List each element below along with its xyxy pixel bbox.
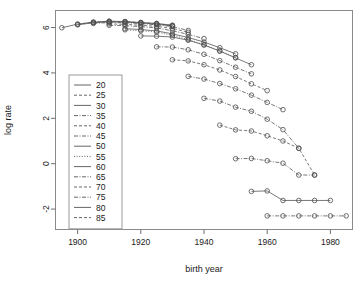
- legend-label-75[interactable]: 75: [96, 192, 106, 202]
- x-axis-label: birth year: [185, 264, 223, 274]
- y-axis-label: log rate: [3, 105, 13, 135]
- x-tick-label: 1960: [258, 237, 277, 247]
- chart-background: [0, 0, 364, 285]
- legend-label-40[interactable]: 40: [96, 121, 106, 131]
- legend[interactable]: 2025303540455055606570758085: [69, 75, 122, 229]
- x-tick-label: 1900: [68, 237, 87, 247]
- y-tick-label: 6: [42, 25, 52, 30]
- y-tick-label: 4: [42, 70, 52, 75]
- chart-root: 19001920194019601980 6420-2 birth year l…: [0, 0, 364, 285]
- legend-label-50[interactable]: 50: [96, 141, 106, 151]
- legend-label-65[interactable]: 65: [96, 172, 106, 182]
- y-tick-label: 2: [42, 116, 52, 121]
- legend-label-30[interactable]: 30: [96, 101, 106, 111]
- y-tick-label: -2: [42, 205, 52, 213]
- legend-label-70[interactable]: 70: [96, 182, 106, 192]
- legend-label-20[interactable]: 20: [96, 80, 106, 90]
- x-tick-label: 1940: [195, 237, 214, 247]
- legend-label-80[interactable]: 80: [96, 203, 106, 213]
- legend-label-60[interactable]: 60: [96, 162, 106, 172]
- x-tick-label: 1980: [321, 237, 340, 247]
- x-tick-label: 1920: [131, 237, 150, 247]
- y-tick-label: 0: [42, 161, 52, 166]
- legend-label-35[interactable]: 35: [96, 111, 106, 121]
- cohort-log-rate-chart: 19001920194019601980 6420-2 birth year l…: [0, 0, 364, 285]
- legend-label-25[interactable]: 25: [96, 90, 106, 100]
- legend-label-45[interactable]: 45: [96, 131, 106, 141]
- legend-label-55[interactable]: 55: [96, 152, 106, 162]
- legend-label-85[interactable]: 85: [96, 213, 106, 223]
